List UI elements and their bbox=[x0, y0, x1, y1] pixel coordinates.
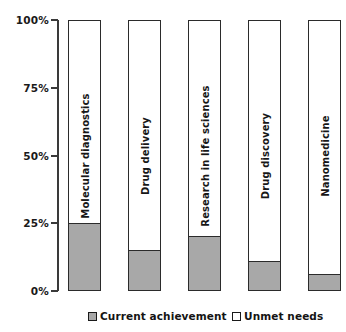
legend-label: Unmet needs bbox=[244, 310, 323, 322]
y-axis-tick-label-wrap: 75% bbox=[0, 82, 49, 94]
stacked-bar[interactable]: Drug discovery bbox=[248, 20, 281, 291]
y-axis-tick bbox=[51, 87, 58, 89]
y-axis-tick-label: 0% bbox=[1, 285, 49, 297]
y-axis-tick-label-wrap: 100% bbox=[0, 14, 49, 26]
y-axis-tick-label-wrap: 50% bbox=[0, 150, 49, 162]
y-axis-tick bbox=[51, 290, 58, 292]
y-axis-tick-label-wrap: 0% bbox=[0, 285, 49, 297]
y-axis-tick-label-wrap: 25% bbox=[0, 217, 49, 229]
y-axis-tick bbox=[51, 19, 58, 21]
y-axis-tick-label: 75% bbox=[1, 82, 49, 94]
stacked-bar[interactable]: Research in life sciences bbox=[188, 20, 221, 291]
bar-slot: Research in life sciences bbox=[188, 20, 221, 291]
bar-slot: Molecular diagnostics bbox=[68, 20, 101, 291]
legend-item[interactable]: Unmet needs bbox=[232, 310, 323, 322]
stacked-bar-chart: 0%25%50%75%100% Molecular diagnosticsDru… bbox=[0, 0, 346, 332]
legend-swatch-icon bbox=[232, 312, 241, 321]
legend-label: Current achievement bbox=[100, 310, 227, 322]
y-axis-tick-label: 25% bbox=[1, 217, 49, 229]
stacked-bar[interactable]: Nanomedicine bbox=[308, 20, 341, 291]
stacked-bar[interactable]: Drug delivery bbox=[128, 20, 161, 291]
bar-category-label: Drug discovery bbox=[259, 112, 270, 198]
bar-segment-current-achievement[interactable] bbox=[69, 223, 100, 290]
legend-swatch-icon bbox=[88, 312, 97, 321]
bar-segment-current-achievement[interactable] bbox=[129, 250, 160, 290]
bar-category-label: Drug delivery bbox=[139, 117, 150, 195]
y-axis-tick-label: 50% bbox=[1, 150, 49, 162]
y-axis-tick bbox=[51, 155, 58, 157]
bar-segment-current-achievement[interactable] bbox=[189, 236, 220, 290]
bar-segment-current-achievement[interactable] bbox=[249, 261, 280, 290]
bar-category-label: Molecular diagnostics bbox=[79, 93, 90, 218]
plot-area: Molecular diagnosticsDrug deliveryResear… bbox=[59, 20, 342, 291]
bar-slot: Nanomedicine bbox=[308, 20, 341, 291]
bar-category-label: Nanomedicine bbox=[319, 115, 330, 196]
legend-item[interactable]: Current achievement bbox=[88, 310, 227, 322]
y-axis-tick bbox=[51, 222, 58, 224]
bar-slot: Drug delivery bbox=[128, 20, 161, 291]
bar-slot: Drug discovery bbox=[248, 20, 281, 291]
bar-segment-current-achievement[interactable] bbox=[309, 274, 340, 290]
stacked-bar[interactable]: Molecular diagnostics bbox=[68, 20, 101, 291]
chart-legend: Current achievementUnmet needs bbox=[0, 305, 346, 327]
y-axis-tick-label: 100% bbox=[1, 14, 49, 26]
bar-category-label: Research in life sciences bbox=[199, 85, 210, 226]
